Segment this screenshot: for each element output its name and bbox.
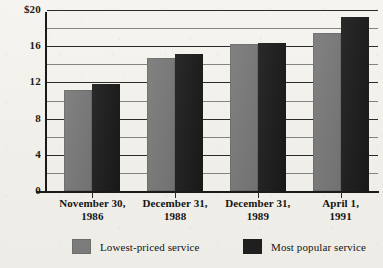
bar <box>230 44 258 191</box>
x-axis-tick-mark <box>258 192 259 198</box>
bar <box>341 17 369 191</box>
bar-group <box>230 10 286 194</box>
y-axis-tick-label: $20 <box>0 3 41 15</box>
x-axis-tick-line2: 1991 <box>282 210 383 223</box>
y-axis-tick-label: 0 <box>0 184 41 196</box>
legend-item-lowest-priced: Lowest-priced service <box>72 239 200 254</box>
y-axis-line <box>45 12 47 193</box>
x-axis-tick-mark <box>92 192 93 198</box>
bar <box>313 33 341 191</box>
x-axis-tick-line1: April 1, <box>322 197 359 209</box>
bar <box>175 54 203 191</box>
bar-chart: $20 16 12 8 4 0 November 30, 1986 Decemb… <box>0 0 383 268</box>
x-axis-baseline <box>36 191 379 193</box>
y-axis-tick-label: 4 <box>0 148 41 160</box>
x-axis-tick-mark <box>175 192 176 198</box>
y-axis-tick-label: 16 <box>0 39 41 51</box>
bar <box>258 43 286 191</box>
legend-item-most-popular: Most popular service <box>243 239 366 254</box>
legend-swatch-icon <box>243 239 262 254</box>
y-axis-tick-label: 8 <box>0 112 41 124</box>
legend-item-label: Most popular service <box>271 241 366 253</box>
bar-group <box>147 10 203 194</box>
bar <box>147 58 175 191</box>
plot-area <box>47 10 378 194</box>
chart-legend: Lowest-priced service Most popular servi… <box>0 239 383 261</box>
legend-item-label: Lowest-priced service <box>100 241 200 253</box>
bar <box>64 90 92 191</box>
y-axis-tick-label: 12 <box>0 75 41 87</box>
bar <box>92 84 120 191</box>
x-axis-tick-mark <box>341 192 342 198</box>
bar-group <box>313 10 369 194</box>
x-axis-tick-label: April 1, 1991 <box>282 197 383 222</box>
legend-swatch-icon <box>72 239 91 254</box>
bar-group <box>64 10 120 194</box>
